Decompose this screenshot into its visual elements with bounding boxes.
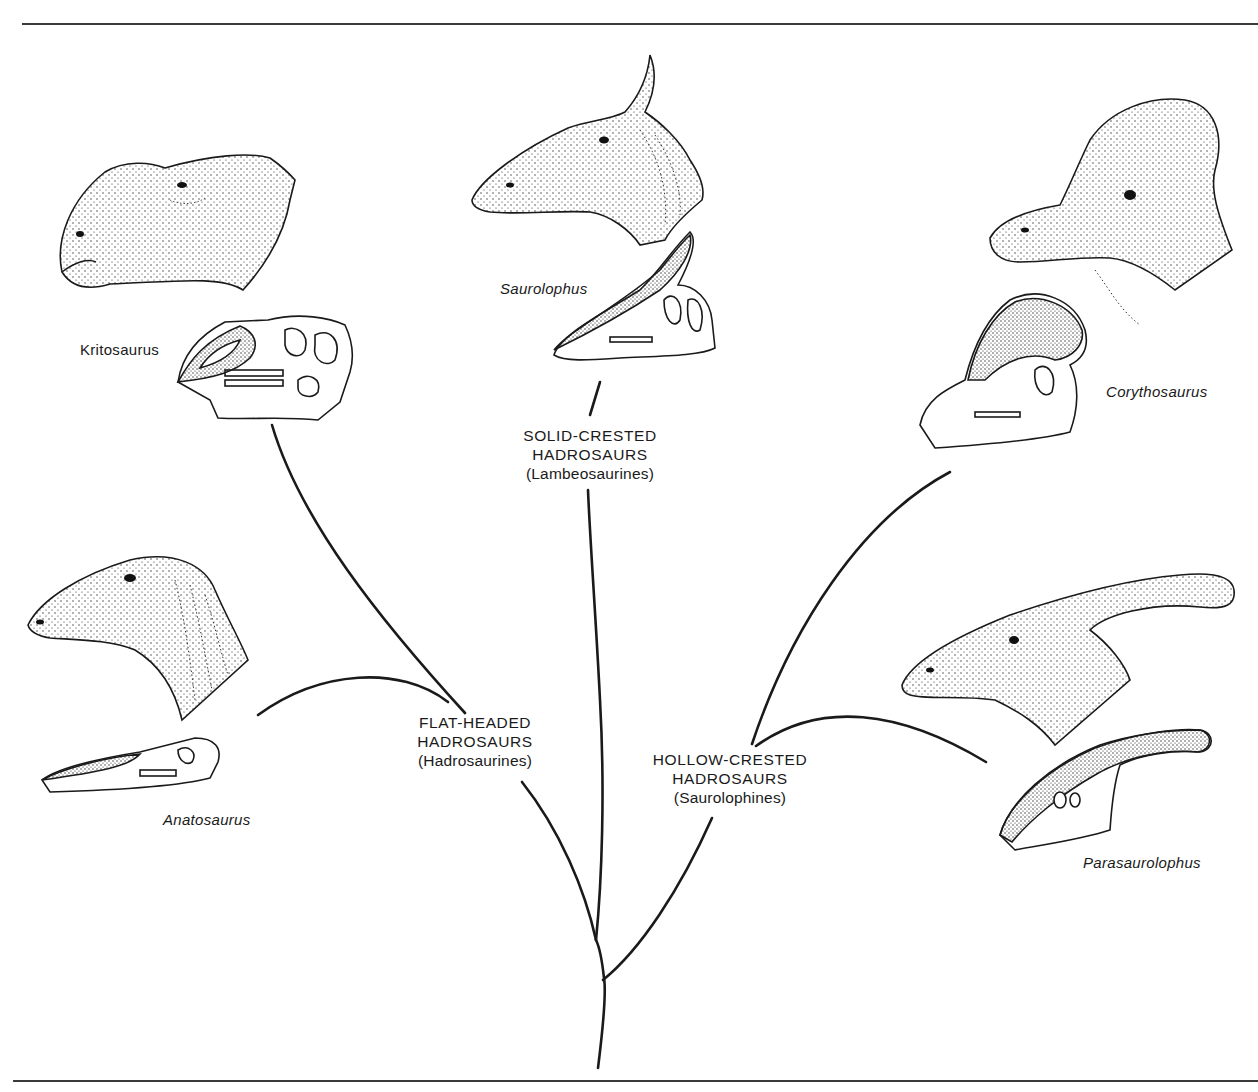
corythosaurus-head-illustration: [990, 99, 1232, 325]
hollow-crested-lower-branch: [603, 818, 712, 980]
saurolophus-head-illustration: [472, 55, 703, 245]
solid-crested-lower-branch: [588, 490, 603, 940]
hollow-crested-subtitle: HADROSAURS: [640, 769, 820, 788]
corythosaurus-skull-illustration: [920, 294, 1086, 448]
corythosaurus-label: Corythosaurus: [1106, 382, 1207, 401]
hollow-crested-taxon: (Saurolophines): [640, 788, 820, 807]
corythosaurus-branch: [752, 472, 950, 744]
trunk-branch: [596, 940, 605, 1068]
flat-headed-taxon: (Hadrosaurines): [400, 751, 550, 770]
saurolophus-branch: [590, 382, 600, 415]
solid-crested-taxon: (Lambeosaurines): [500, 464, 680, 483]
hollow-crested-title: HOLLOW-CRESTED: [640, 750, 820, 769]
saurolophus-label: Saurolophus: [500, 279, 588, 298]
flat-headed-title: FLAT-HEADED: [400, 713, 550, 732]
solid-crested-subtitle: HADROSAURS: [500, 445, 680, 464]
parasaurolophus-head-illustration: [902, 574, 1234, 745]
parasaurolophus-skull-illustration: [1000, 730, 1211, 850]
tree-branches: [258, 382, 986, 1068]
parasaurolophus-label: Parasaurolophus: [1083, 853, 1201, 872]
anatosaurus-head-illustration: [28, 557, 248, 720]
flat-headed-group-label: FLAT-HEADED HADROSAURS (Hadrosaurines): [400, 713, 550, 770]
anatosaurus-skull-illustration: [42, 738, 219, 792]
kritosaurus-head-illustration: [60, 155, 295, 290]
anatosaurus-label: Anatosaurus: [163, 810, 251, 829]
kritosaurus-skull-illustration: [178, 316, 352, 420]
hollow-crested-group-label: HOLLOW-CRESTED HADROSAURS (Saurolophines…: [640, 750, 820, 807]
kritosaurus-branch: [272, 425, 465, 713]
anatosaurus-branch: [258, 677, 448, 715]
flat-headed-subtitle: HADROSAURS: [400, 732, 550, 751]
solid-crested-group-label: SOLID-CRESTED HADROSAURS (Lambeosaurines…: [500, 426, 680, 483]
kritosaurus-label: Kritosaurus: [80, 340, 159, 359]
tree-diagram: [0, 0, 1258, 1092]
flat-headed-lower-branch: [522, 782, 596, 940]
solid-crested-title: SOLID-CRESTED: [500, 426, 680, 445]
